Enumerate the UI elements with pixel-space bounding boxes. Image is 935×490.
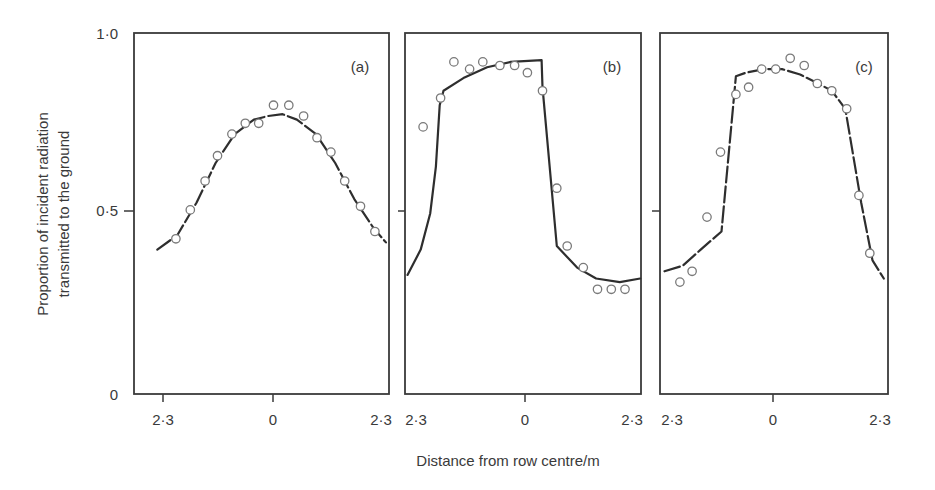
x-axis-title: Distance from row centre/m xyxy=(416,452,599,469)
fitted-curve xyxy=(408,60,641,282)
y-tick-label-0: 0 xyxy=(110,386,118,403)
data-point xyxy=(607,285,615,293)
x-tick-label-c-left: 2·3 xyxy=(661,411,683,428)
panel-c-label: (c) xyxy=(855,58,873,75)
data-point xyxy=(269,101,277,109)
data-point xyxy=(313,134,321,142)
panel-b-frame xyxy=(405,33,641,394)
figure: Proportion of incident radiation transmi… xyxy=(0,0,935,490)
data-point xyxy=(538,87,546,95)
y-tick-label-0-5: 0·5 xyxy=(96,202,118,219)
data-point xyxy=(688,267,696,275)
data-point xyxy=(465,65,473,73)
data-point xyxy=(436,94,444,102)
data-point xyxy=(758,65,766,73)
data-point xyxy=(579,263,587,271)
data-point xyxy=(621,285,629,293)
data-point xyxy=(866,249,874,257)
data-point xyxy=(479,58,487,66)
data-point xyxy=(341,177,349,185)
data-point xyxy=(496,61,504,69)
data-point xyxy=(703,213,711,221)
data-point xyxy=(172,235,180,243)
data-point xyxy=(186,206,194,214)
fitted-curve xyxy=(665,69,884,278)
data-point xyxy=(828,87,836,95)
y-tick-label-1: 1·0 xyxy=(96,25,118,42)
data-point xyxy=(676,278,684,286)
data-point xyxy=(241,119,249,127)
data-point xyxy=(772,65,780,73)
x-tick-label-a-left: 2·3 xyxy=(152,411,174,428)
fitted-curve xyxy=(157,114,386,249)
data-point xyxy=(356,202,364,210)
data-point xyxy=(716,148,724,156)
data-point xyxy=(419,123,427,131)
x-tick-label-a-right: 2·3 xyxy=(370,411,392,428)
panel-a-plot xyxy=(157,101,386,250)
data-point xyxy=(213,152,221,160)
x-tick-label-b-right: 2·3 xyxy=(621,411,643,428)
data-point xyxy=(510,61,518,69)
panel-a-frame xyxy=(134,33,389,394)
panel-b-label: (b) xyxy=(603,58,621,75)
data-point xyxy=(523,69,531,77)
data-point xyxy=(371,227,379,235)
x-tick-label-a-zero: 0 xyxy=(269,411,277,428)
data-point xyxy=(800,61,808,69)
data-point xyxy=(201,177,209,185)
panel-c-frame xyxy=(660,33,888,394)
y-axis-title: Proportion of incident radiation transmi… xyxy=(34,112,72,315)
x-tick-label-b-left: 2·3 xyxy=(405,411,427,428)
data-point xyxy=(732,90,740,98)
data-point xyxy=(285,101,293,109)
data-point xyxy=(563,242,571,250)
panel-c: (c) 2·3 0 2·3 xyxy=(652,33,891,428)
x-tick-label-c-zero: 0 xyxy=(769,411,777,428)
data-point xyxy=(255,119,263,127)
y-axis-title-line2: transmitted to the ground xyxy=(55,131,72,298)
y-axis-title-line1: Proportion of incident radiation xyxy=(34,112,51,315)
data-point xyxy=(855,191,863,199)
x-tick-label-b-zero: 0 xyxy=(521,411,529,428)
data-point xyxy=(813,79,821,87)
data-point xyxy=(299,112,307,120)
data-point xyxy=(593,285,601,293)
x-tick-label-c-right: 2·3 xyxy=(869,411,891,428)
data-point xyxy=(228,130,236,138)
panel-a: (a) 2·3 0 2·3 xyxy=(134,33,392,428)
data-point xyxy=(327,148,335,156)
data-point xyxy=(450,58,458,66)
panel-c-plot xyxy=(665,54,884,286)
panel-b-plot xyxy=(408,58,641,294)
data-point xyxy=(786,54,794,62)
data-point xyxy=(744,83,752,91)
panel-a-label: (a) xyxy=(351,58,369,75)
panel-b: (b) 2·3 0 2·3 xyxy=(398,33,643,428)
data-point xyxy=(553,184,561,192)
data-point xyxy=(843,105,851,113)
